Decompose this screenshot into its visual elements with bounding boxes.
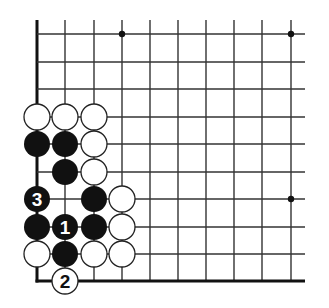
white-stone (109, 241, 135, 267)
white-stone: 2 (52, 268, 78, 294)
go-board-svg: 312 (0, 0, 329, 308)
black-stone (81, 214, 107, 240)
grid-lines (36, 20, 306, 283)
white-stone (109, 214, 135, 240)
white-stone-icon (81, 104, 107, 130)
black-stone-icon (52, 159, 78, 185)
move-number-label: 3 (32, 189, 43, 210)
black-stone: 3 (24, 186, 50, 212)
star-point-icon (119, 31, 125, 37)
white-stone-icon (52, 104, 78, 130)
white-stone (81, 159, 107, 185)
black-stone-icon (81, 214, 107, 240)
black-stone-icon (24, 214, 50, 240)
white-stone-icon (109, 241, 135, 267)
white-stone (81, 131, 107, 157)
go-board-diagram: 312 (0, 0, 329, 308)
black-stone (81, 186, 107, 212)
black-stone-icon (81, 186, 107, 212)
white-stone-icon (24, 241, 50, 267)
black-stone (52, 241, 78, 267)
black-stone-icon (52, 241, 78, 267)
white-stone (81, 104, 107, 130)
black-stone (52, 131, 78, 157)
white-stone-icon (109, 186, 135, 212)
star-point-icon (288, 196, 294, 202)
white-stone (109, 186, 135, 212)
white-stone (81, 241, 107, 267)
star-point-icon (288, 31, 294, 37)
white-stone-icon (81, 241, 107, 267)
white-stone-icon (81, 159, 107, 185)
black-stone (24, 214, 50, 240)
black-stone (24, 131, 50, 157)
white-stone-icon (109, 214, 135, 240)
move-number-label: 2 (60, 271, 71, 292)
black-stone-icon (24, 131, 50, 157)
white-stone (24, 241, 50, 267)
white-stone (52, 104, 78, 130)
move-number-label: 1 (60, 217, 71, 238)
black-stone-icon (52, 131, 78, 157)
white-stone (24, 104, 50, 130)
black-stone (52, 159, 78, 185)
white-stone-icon (24, 104, 50, 130)
white-stone-icon (81, 131, 107, 157)
black-stone: 1 (52, 214, 78, 240)
